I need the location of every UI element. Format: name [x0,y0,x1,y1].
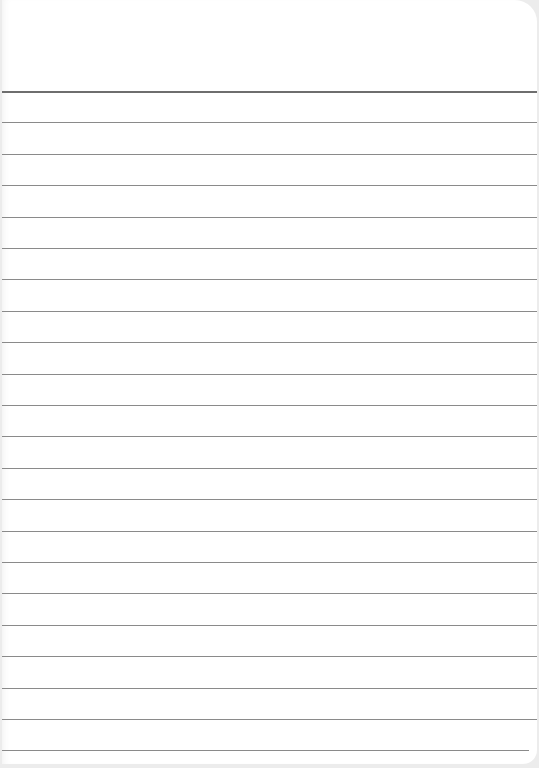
rule-line [2,593,537,594]
rule-line [2,311,537,312]
rule-line [2,279,537,280]
rule-line [2,688,537,689]
rule-line [2,122,537,123]
rule-line [2,405,537,406]
rule-line [2,562,537,563]
rule-line [2,217,537,218]
rule-line [2,248,537,249]
rule-line [2,499,537,500]
rule-line [2,342,537,343]
header-rule-line [2,91,537,93]
rule-line [2,436,537,437]
rule-line [2,531,537,532]
rule-line [2,719,537,720]
rule-line [2,750,529,751]
rule-line [2,374,537,375]
rule-line [2,625,537,626]
rule-line [2,468,537,469]
rule-line [2,154,537,155]
lined-paper-sheet [2,0,537,764]
rule-line [2,185,537,186]
rule-line [2,656,537,657]
